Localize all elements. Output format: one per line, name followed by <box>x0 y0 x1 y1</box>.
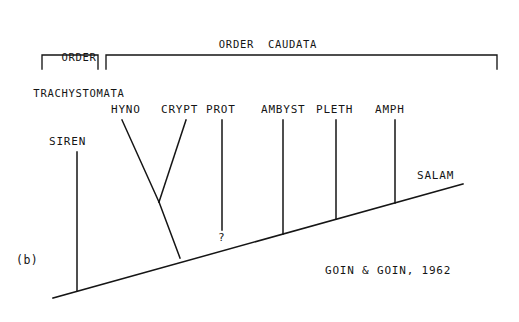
branch-hyno <box>122 120 159 202</box>
taxon-label-crypt: CRYPT <box>161 104 198 116</box>
taxon-label-prot: PROT <box>206 104 236 116</box>
taxon-label-pleth: PLETH <box>316 104 353 116</box>
taxon-label-hyno: HYNO <box>111 104 141 116</box>
taxon-label-amph: AMPH <box>375 104 405 116</box>
phylogeny-figure: ORDER TRACHYSTOMATA ORDER CAUDATA SIREN … <box>0 0 519 322</box>
baseline <box>53 184 463 298</box>
taxon-label-siren: SIREN <box>49 136 86 148</box>
panel-label: (b) <box>16 254 38 266</box>
branch-crypt <box>159 120 186 202</box>
order-trachystomata-line2: TRACHYSTOMATA <box>32 87 126 99</box>
taxon-label-salam: SALAM <box>417 170 454 182</box>
branch-hyno-crypt-stem <box>159 202 180 258</box>
order-trachystomata-line1: ORDER <box>32 51 126 63</box>
order-caudata-label: ORDER CAUDATA <box>172 38 364 50</box>
taxon-label-ambyst: AMBYST <box>261 104 306 116</box>
uncertainty-question-mark: ? <box>218 232 225 244</box>
bracket-caudata <box>106 55 497 69</box>
figure-credit: GOIN & GOIN, 1962 <box>325 265 451 277</box>
